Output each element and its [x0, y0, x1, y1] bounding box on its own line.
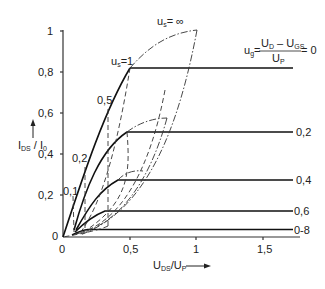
y-tick-0-8: 0,8	[38, 66, 53, 78]
ug-0-4-label: 0,4	[296, 174, 311, 186]
y-tick-1: 1	[47, 25, 53, 37]
x-axis-label: UDS/UP	[153, 259, 211, 272]
ug-0-4-curve	[76, 180, 293, 230]
y-axis-label: IDS / I0	[18, 119, 47, 152]
us-inf-0-4	[118, 171, 143, 180]
y-tick-0-2: 0,2	[38, 189, 53, 201]
ug-0-6-label: 0,6	[294, 205, 309, 217]
x-tick-1: 1	[193, 243, 199, 255]
us-inf-0-2	[127, 118, 167, 132]
ug-0-2-curve	[74, 132, 293, 230]
us-sat-dash-1	[80, 68, 130, 233]
svg-text:= 0: = 0	[301, 44, 317, 56]
us-0-5-label: 0,5	[97, 94, 112, 106]
svg-text:IDS / I0: IDS / I0	[18, 139, 47, 152]
ug-0-8-label: 0-8	[294, 224, 310, 236]
jfet-output-characteristics-chart: 1 0,8 0,6 0,4 0,2 0 0 0,5 1 1,5 IDS / I0…	[0, 0, 325, 289]
us-inf-envelope	[130, 30, 197, 68]
us-1-label: us=1	[111, 55, 133, 68]
y-tick-0-6: 0,6	[38, 107, 53, 119]
us-0-1-curve	[73, 196, 74, 232]
svg-text:UD – UGS: UD – UGS	[261, 37, 305, 50]
axes	[60, 30, 300, 240]
x-tick-0-5: 0,5	[123, 243, 138, 255]
ug-0-8-curve	[72, 230, 293, 236]
svg-text:UP: UP	[272, 52, 285, 65]
us-0-2-label: 0,2	[72, 152, 87, 164]
us-infinity-label: us= ∞	[157, 15, 184, 28]
svg-text:ug=: ug=	[244, 44, 260, 58]
x-tick-0: 0	[59, 243, 65, 255]
ug-0-2-label: 0,2	[296, 126, 311, 138]
svg-text:UDS/UP: UDS/UP	[153, 259, 187, 272]
y-tick-0: 0	[52, 230, 58, 242]
ug-formula: ug= UD – UGS UP = 0	[244, 37, 317, 65]
us-0-1-label: 0,1	[63, 185, 78, 197]
x-tick-1-5: 1,5	[257, 243, 272, 255]
